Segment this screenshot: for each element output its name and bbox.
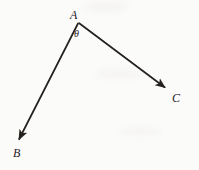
ray-a-to-c (79, 23, 164, 87)
angle-diagram-figure: A B C θ (0, 0, 199, 170)
angle-diagram-canvas (0, 0, 199, 170)
angle-label-theta: θ (74, 29, 79, 39)
ray-a-to-b (19, 24, 78, 140)
endpoint-label-b: B (13, 147, 20, 159)
endpoint-label-c: C (172, 92, 180, 104)
vertex-label-a: A (70, 9, 77, 21)
